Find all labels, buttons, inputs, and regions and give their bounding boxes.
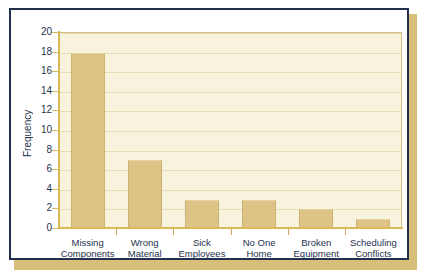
x-axis-category-label: BrokenEquipment bbox=[288, 237, 345, 259]
gridline bbox=[59, 111, 401, 112]
gridline bbox=[59, 53, 401, 54]
y-axis-tick bbox=[52, 130, 58, 131]
y-axis-tick bbox=[52, 169, 58, 170]
gridline bbox=[59, 170, 401, 171]
x-axis-category-line: Employees bbox=[173, 248, 230, 259]
gridline bbox=[59, 190, 401, 191]
x-axis-category-line: Equipment bbox=[288, 248, 345, 259]
y-axis-tick bbox=[52, 32, 58, 33]
bar bbox=[242, 200, 276, 229]
gridline bbox=[59, 209, 401, 210]
y-axis-tick-label: 18 bbox=[11, 47, 52, 57]
x-axis-category-line: Missing bbox=[59, 237, 116, 248]
x-axis-category-line: No One bbox=[231, 237, 288, 248]
y-axis-tick bbox=[52, 150, 58, 151]
y-axis-tick-label: 0 bbox=[11, 223, 52, 233]
plot-area bbox=[59, 32, 402, 228]
x-axis-category-label: WrongMaterial bbox=[116, 237, 173, 259]
y-axis-line bbox=[58, 31, 60, 229]
bar bbox=[128, 160, 162, 229]
y-axis-tick bbox=[52, 189, 58, 190]
x-axis-category-line: Scheduling bbox=[345, 237, 402, 248]
x-axis-category-line: Conflicts bbox=[345, 248, 402, 259]
y-axis-tick-label: 4 bbox=[11, 184, 52, 194]
x-axis-category-line: Home bbox=[231, 248, 288, 259]
y-axis-tick bbox=[52, 110, 58, 111]
x-axis-category-label: MissingComponents bbox=[59, 237, 116, 259]
x-axis-category-line: Components bbox=[59, 248, 116, 259]
gridline bbox=[59, 92, 401, 93]
gridline bbox=[59, 151, 401, 152]
bar bbox=[185, 200, 219, 229]
y-axis-tick bbox=[52, 71, 58, 72]
gridline bbox=[59, 72, 401, 73]
y-axis-tick bbox=[52, 91, 58, 92]
chart-card: 02468101214161820 Frequency MissingCompo… bbox=[9, 8, 409, 260]
x-axis-separator-tick bbox=[345, 229, 346, 235]
x-axis-separator-tick bbox=[288, 229, 289, 235]
gridline bbox=[59, 33, 401, 34]
x-axis-category-label: SickEmployees bbox=[173, 237, 230, 259]
x-axis-separator-tick bbox=[231, 229, 232, 235]
y-axis-tick bbox=[52, 228, 58, 229]
x-axis-separator-tick bbox=[173, 229, 174, 235]
y-axis-label: Frequency bbox=[21, 88, 35, 178]
x-axis-category-label: No OneHome bbox=[231, 237, 288, 259]
x-axis-category-line: Sick bbox=[173, 237, 230, 248]
y-axis-tick bbox=[52, 208, 58, 209]
y-axis-tick-label: 16 bbox=[11, 66, 52, 76]
y-axis-tick bbox=[52, 52, 58, 53]
y-axis-tick-label: 2 bbox=[11, 203, 52, 213]
gridline bbox=[59, 131, 401, 132]
x-axis-category-label: SchedulingConflicts bbox=[345, 237, 402, 259]
x-axis-category-line: Broken bbox=[288, 237, 345, 248]
x-axis-separator-tick bbox=[116, 229, 117, 235]
bar bbox=[71, 53, 105, 229]
bar-chart-figure: 02468101214161820 Frequency MissingCompo… bbox=[0, 0, 425, 276]
x-axis-category-line: Material bbox=[116, 248, 173, 259]
x-axis-category-line: Wrong bbox=[116, 237, 173, 248]
y-axis-tick-label: 20 bbox=[11, 27, 52, 37]
